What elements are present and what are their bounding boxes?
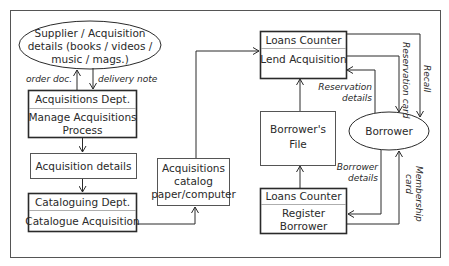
borrower-node: Borrower — [349, 112, 429, 150]
lend-acquisition-header: Loans Counter — [266, 34, 343, 46]
cataloguing-dept-label: Catalogue Acquisition — [25, 215, 139, 227]
borrowers-file-node: Borrower's File — [261, 112, 336, 166]
order-doc-label: order doc. — [26, 74, 72, 84]
delivery-note-label: delivery note — [98, 74, 158, 84]
supplier-label-3: music / mags.) — [51, 53, 129, 65]
acquisitions-dept-header: Acquisitions Dept. — [35, 93, 130, 105]
reservation-card-label: Reservation card — [401, 42, 411, 119]
register-borrower-label-1: Register — [282, 207, 326, 219]
borrowers-file-label-2: File — [289, 138, 307, 150]
acquisitions-catalog-label-2: catalog — [174, 175, 213, 187]
register-borrower-node: Loans Counter Register Borrower — [261, 189, 347, 234]
borrower-details-label-1: Borrower — [337, 162, 379, 172]
supplier-label-2: details (books / videos / — [28, 40, 153, 52]
supplier-label-1: Supplier / Acquisition — [35, 27, 146, 39]
cataloguing-dept-node: Cataloguing Dept. Catalogue Acquisition — [25, 194, 139, 232]
membership-card-label-1: Membership — [414, 166, 424, 222]
acquisitions-catalog-label-1: Acquisitions — [162, 162, 225, 174]
acquisitions-catalog-label-3: paper/computer — [151, 188, 236, 200]
membership-card-label-2: card — [404, 174, 414, 194]
borrower-label: Borrower — [365, 125, 413, 137]
reservation-details-label-1: Reservation — [318, 82, 372, 92]
lend-acquisition-label: Lend Acquisition — [260, 53, 346, 65]
diagram-canvas: Supplier / Acquisition details (books / … — [0, 0, 449, 266]
recall-label: Recall — [422, 65, 432, 93]
cataloguing-dept-header: Cataloguing Dept. — [35, 196, 130, 208]
reservation-details-label-2: details — [342, 93, 372, 103]
supplier-node: Supplier / Acquisition details (books / … — [19, 21, 161, 69]
register-borrower-label-2: Borrower — [280, 220, 328, 232]
acquisition-details-label: Acquisition details — [36, 160, 132, 172]
borrowers-file-label-1: Borrower's — [270, 123, 326, 135]
acquisitions-dept-node: Acquisitions Dept. Manage Acquisitions P… — [28, 91, 136, 138]
lend-acquisition-node: Loans Counter Lend Acquisition — [260, 32, 346, 79]
acquisitions-catalog-node: Acquisitions catalog paper/computer — [151, 159, 236, 206]
register-borrower-header: Loans Counter — [266, 190, 343, 202]
borrower-details-label-2: details — [348, 173, 378, 183]
acquisitions-dept-label-2: Process — [63, 124, 103, 136]
acquisitions-dept-label-1: Manage Acquisitions — [28, 111, 136, 123]
acquisition-details-node: Acquisition details — [31, 154, 137, 179]
